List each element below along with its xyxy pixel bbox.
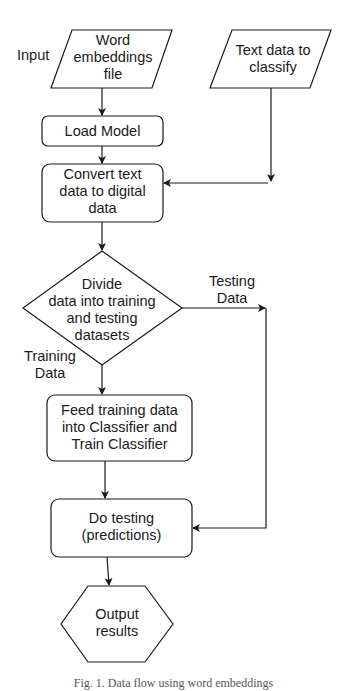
load-model-label: Load Model (42, 123, 163, 140)
input-label: Input (17, 47, 49, 64)
label-line: Data (202, 290, 262, 307)
label-line: embeddings (58, 49, 168, 66)
label-line: Divide (32, 276, 172, 293)
label-line: Word (58, 32, 168, 49)
divide-label: Divide data into training and testing da… (32, 276, 172, 344)
label-line: Feed training data (47, 402, 192, 419)
testing-label: Do testing (predictions) (51, 510, 192, 544)
label-line: data (42, 200, 163, 217)
label-line: Train Classifier (47, 436, 192, 453)
label-line: data to digital (42, 183, 163, 200)
label-line: Testing (202, 273, 262, 290)
label-line: and testing (32, 310, 172, 327)
edge-testing-to-output (107, 557, 109, 585)
label-line: datasets (32, 327, 172, 344)
convert-label: Convert text data to digital data (42, 166, 163, 217)
label-line: file (58, 66, 168, 83)
label-line: results (61, 623, 173, 640)
label-line: Training (20, 348, 80, 365)
training-data-label: Training Data (20, 348, 80, 382)
label-line: Text data to (218, 42, 328, 59)
text-data-label: Text data to classify (218, 42, 328, 76)
word-embeddings-label: Word embeddings file (58, 32, 168, 83)
output-label: Output results (61, 606, 173, 640)
label-line: classify (218, 59, 328, 76)
testing-data-label: Testing Data (202, 273, 262, 307)
edge-testing-data-to-testing (193, 308, 266, 528)
figure-caption: Fig. 1. Data flow using word embeddings (0, 676, 347, 691)
label-line: (predictions) (51, 527, 192, 544)
label-line: Output (61, 606, 173, 623)
label-line: Data (20, 365, 80, 382)
label-line: Do testing (51, 510, 192, 527)
label-line: into Classifier and (47, 419, 192, 436)
label-line: Convert text (42, 166, 163, 183)
feed-label: Feed training data into Classifier and T… (47, 402, 192, 453)
label-line: data into training (32, 293, 172, 310)
